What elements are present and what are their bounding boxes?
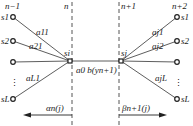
edge-aL1 bbox=[13, 61, 70, 99]
edge-aj2 bbox=[121, 41, 177, 61]
node-center-si bbox=[68, 59, 72, 63]
left-dots: ⋮ bbox=[10, 78, 19, 88]
edge-ajL-label: ajL bbox=[155, 73, 167, 83]
node-right-s2 bbox=[175, 39, 180, 44]
label-n+1: n+1 bbox=[121, 1, 136, 11]
beta-arrowhead-icon bbox=[159, 113, 167, 118]
node-left-s1 bbox=[11, 15, 16, 20]
center-edge-label: a0 b(yn+1) bbox=[76, 65, 117, 75]
edge-aj2-label: aj2 bbox=[152, 41, 164, 51]
node-right-sL bbox=[175, 97, 180, 102]
label-n+2: n+2 bbox=[172, 1, 188, 11]
left-s2-label: s2 bbox=[1, 36, 10, 46]
beta-label: βn+1(j) bbox=[121, 103, 150, 113]
edge-a21-label: a21 bbox=[29, 41, 43, 51]
left-s1-label: s1 bbox=[1, 12, 9, 22]
edge-a11-label: a11 bbox=[36, 27, 49, 37]
node-center-sj bbox=[119, 59, 123, 63]
edge-aj1-label: aj1 bbox=[152, 27, 164, 37]
right-sL-label: sL bbox=[181, 94, 190, 104]
trellis-diagram: ⋮ ⋮ n−1 n n+1 n+2 s1 s2 sL s1 s2 sL si s… bbox=[0, 0, 193, 126]
right-dots: ⋮ bbox=[174, 78, 183, 88]
right-s2-label: s2 bbox=[181, 36, 190, 46]
center-si-label: si bbox=[64, 48, 71, 58]
node-right-s1 bbox=[175, 15, 180, 20]
label-n: n bbox=[64, 1, 69, 11]
label-n-1: n−1 bbox=[5, 1, 20, 11]
edge-a11 bbox=[13, 17, 70, 61]
alpha-label: αn(j) bbox=[46, 103, 64, 113]
right-s1-label: s1 bbox=[181, 12, 189, 22]
center-sj-label: sj bbox=[121, 48, 128, 58]
edge-ajL bbox=[121, 61, 177, 99]
edge-aL1-label: aL1 bbox=[26, 73, 40, 83]
edge-a31 bbox=[13, 61, 70, 62]
edge-aj3 bbox=[121, 61, 177, 62]
edge-aj1 bbox=[121, 17, 177, 61]
alpha-arrowhead-icon bbox=[23, 113, 31, 118]
left-sL-label: sL bbox=[1, 94, 10, 104]
node-left-s2 bbox=[11, 39, 16, 44]
node-right-s3 bbox=[175, 60, 180, 65]
node-left-s3 bbox=[11, 60, 16, 65]
node-left-sL bbox=[11, 97, 16, 102]
